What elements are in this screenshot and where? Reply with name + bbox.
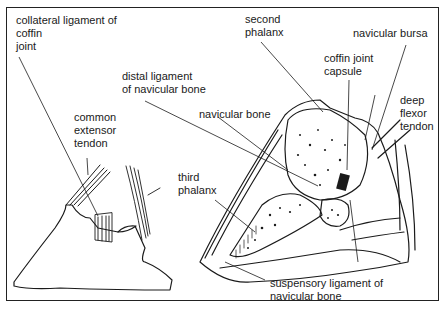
sole-outline xyxy=(220,250,400,268)
label-common-extensor-tendon: common extensor tendon xyxy=(74,111,116,150)
label-distal-ligament: distal ligament of navicular bone xyxy=(122,70,206,96)
navicular-bursa-fill xyxy=(336,173,350,191)
label-coffin-joint-capsule: coffin joint capsule xyxy=(324,52,373,78)
collateral-ligament-drawing xyxy=(95,213,112,242)
left-hoof-outline xyxy=(14,205,172,290)
label-navicular-bursa: navicular bursa xyxy=(353,27,428,40)
navicular-bone-outline xyxy=(320,199,349,227)
label-navicular-bone: navicular bone xyxy=(199,108,271,121)
label-third-phalanx: third phalanx xyxy=(178,171,217,197)
label-suspensory-ligament: suspensory ligament of navicular bone xyxy=(270,277,383,303)
label-second-phalanx: second phalanx xyxy=(245,13,284,39)
label-deep-flexor-tendon: deep flexor tendon xyxy=(400,94,434,133)
label-collateral-ligament: collateral ligament of coffin joint xyxy=(16,14,117,53)
